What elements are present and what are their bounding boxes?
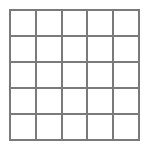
grid-cell <box>114 37 140 63</box>
grid-cell <box>37 115 63 141</box>
grid-cell <box>114 63 140 89</box>
grid-cell <box>63 115 89 141</box>
grid-cell <box>88 115 114 141</box>
grid-cell <box>88 63 114 89</box>
grid-cell <box>11 89 37 115</box>
grid-cell <box>114 11 140 37</box>
grid-cell <box>114 89 140 115</box>
grid-cell <box>11 115 37 141</box>
grid-cell <box>88 37 114 63</box>
grid-cell <box>11 37 37 63</box>
grid-cell <box>37 37 63 63</box>
grid-cell <box>37 89 63 115</box>
grid-cell <box>63 11 89 37</box>
grid-cell <box>88 89 114 115</box>
grid-cell <box>11 11 37 37</box>
grid-5x5 <box>9 9 140 141</box>
grid-cell <box>11 63 37 89</box>
grid-cell <box>114 115 140 141</box>
grid-cell <box>63 63 89 89</box>
grid-cell <box>37 63 63 89</box>
grid-cell <box>37 11 63 37</box>
grid-cell <box>63 89 89 115</box>
grid-cell <box>63 37 89 63</box>
grid-cell <box>88 11 114 37</box>
